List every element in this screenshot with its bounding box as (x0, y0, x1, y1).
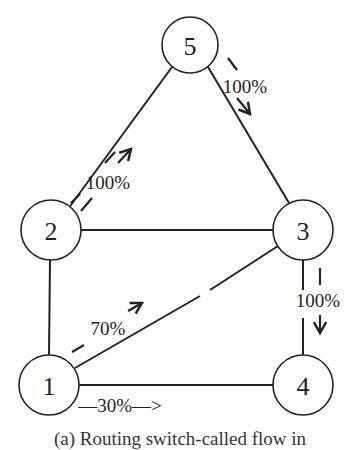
node-1: 1 (19, 355, 79, 415)
flow-1-to-3: 70% (72, 303, 142, 352)
node-3-label: 3 (297, 217, 310, 246)
flow-label-1-4: —30%—> (77, 395, 162, 416)
flow-1-to-4: —30%—> (77, 395, 162, 416)
flow-label-5-3: 100% (223, 76, 268, 97)
figure-caption: (a) Routing switch-called flow in (0, 428, 360, 450)
edges (49, 67, 303, 385)
flow-label-1-3: 70% (91, 318, 126, 339)
node-5-label: 5 (184, 32, 197, 61)
edge-1-3b (210, 246, 278, 290)
edge-2-1 (49, 260, 50, 355)
node-5: 5 (162, 17, 218, 73)
node-2: 2 (21, 200, 81, 260)
flow-2-to-5: 100% (71, 149, 131, 211)
flow-5-to-3: 100% (223, 58, 268, 114)
flow-label-3-4: 100% (296, 290, 341, 311)
node-4: 4 (273, 355, 333, 415)
node-3: 3 (273, 200, 333, 260)
flow-label-2-5: 100% (86, 172, 131, 193)
node-4-label: 4 (297, 372, 310, 401)
node-1-label: 1 (43, 372, 56, 401)
node-2-label: 2 (45, 217, 58, 246)
